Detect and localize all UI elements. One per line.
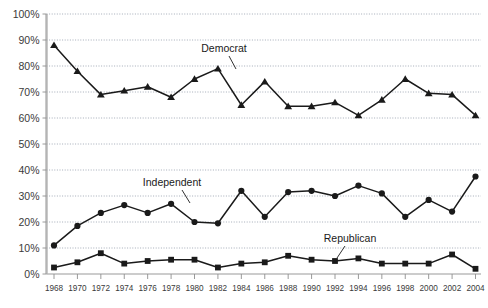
data-point-marker xyxy=(215,220,221,226)
y-tick-label: 100% xyxy=(13,8,40,20)
data-point-marker xyxy=(121,202,127,208)
data-point-marker xyxy=(168,257,174,263)
y-tick-label: 20% xyxy=(18,216,39,228)
data-point-marker xyxy=(261,78,269,85)
y-tick-label: 80% xyxy=(18,60,39,72)
data-point-marker xyxy=(285,189,291,195)
data-point-marker xyxy=(426,197,432,203)
data-point-marker xyxy=(262,259,268,265)
data-point-marker xyxy=(121,261,127,267)
series-independent xyxy=(51,173,479,248)
data-point-marker xyxy=(191,219,197,225)
data-point-marker xyxy=(401,75,409,82)
y-tick-label: 90% xyxy=(18,34,39,46)
x-tick-label: 1990 xyxy=(302,284,321,293)
y-tick-label: 40% xyxy=(18,164,39,176)
x-tick-label: 2004 xyxy=(466,284,485,293)
data-point-marker xyxy=(144,83,152,90)
data-point-marker xyxy=(332,258,338,264)
x-axis-tick-labels: 1968197019721974197619781980198219841986… xyxy=(45,284,485,293)
data-point-marker xyxy=(379,261,385,267)
data-point-marker xyxy=(449,252,455,258)
gridlines xyxy=(47,14,482,274)
data-point-marker xyxy=(215,265,221,271)
x-tick-label: 1984 xyxy=(232,284,251,293)
series-label-republican: Republican xyxy=(324,232,377,244)
leader-line xyxy=(182,190,190,203)
data-point-marker xyxy=(356,256,362,262)
x-tick-label: 1968 xyxy=(45,284,64,293)
y-tick-label: 50% xyxy=(18,138,39,150)
data-point-marker xyxy=(98,210,104,216)
data-point-marker xyxy=(449,209,455,215)
data-point-marker xyxy=(238,188,244,194)
series-label-independent: Independent xyxy=(143,176,201,188)
data-point-marker xyxy=(285,253,291,259)
data-point-marker xyxy=(168,201,174,207)
data-point-marker xyxy=(238,261,244,267)
data-point-marker xyxy=(51,265,57,271)
x-tick-label: 2002 xyxy=(443,284,462,293)
y-axis-tick-labels: 0%10%20%30%40%50%60%70%80%90%100% xyxy=(13,8,47,280)
data-point-marker xyxy=(402,261,408,267)
y-tick-label: 30% xyxy=(18,190,39,202)
series-democrat xyxy=(50,42,479,119)
data-point-marker xyxy=(262,214,268,220)
x-tick-label: 1980 xyxy=(185,284,204,293)
x-tick-label: 1986 xyxy=(256,284,275,293)
data-point-marker xyxy=(472,173,478,179)
data-point-marker xyxy=(379,190,385,196)
data-point-marker xyxy=(426,261,432,267)
x-axis-ticks xyxy=(54,274,476,279)
x-tick-label: 1976 xyxy=(139,284,158,293)
data-point-marker xyxy=(355,183,361,189)
data-point-marker xyxy=(308,188,314,194)
data-point-marker xyxy=(74,223,80,229)
series-annotations: DemocratIndependentRepublican xyxy=(143,42,377,258)
y-tick-label: 10% xyxy=(18,242,39,254)
series-line xyxy=(54,177,476,246)
data-point-marker xyxy=(51,242,57,248)
data-point-marker xyxy=(192,257,198,263)
y-tick-label: 0% xyxy=(24,268,39,280)
x-tick-label: 1988 xyxy=(279,284,298,293)
data-point-marker xyxy=(50,42,58,49)
data-point-marker xyxy=(98,250,104,256)
data-point-marker xyxy=(145,258,151,264)
x-tick-label: 1992 xyxy=(326,284,345,293)
x-tick-label: 1996 xyxy=(373,284,392,293)
series-label-democrat: Democrat xyxy=(201,42,247,54)
data-point-marker xyxy=(214,65,222,72)
x-tick-label: 1998 xyxy=(396,284,415,293)
x-tick-label: 1972 xyxy=(92,284,111,293)
data-point-marker xyxy=(145,210,151,216)
data-point-marker xyxy=(331,99,339,106)
data-point-marker xyxy=(309,257,315,263)
chart-container: 0%10%20%30%40%50%60%70%80%90%100% 196819… xyxy=(0,0,488,308)
leader-line xyxy=(229,56,236,69)
data-point-marker xyxy=(473,266,479,272)
x-tick-label: 1970 xyxy=(68,284,87,293)
x-tick-label: 1994 xyxy=(349,284,368,293)
data-point-marker xyxy=(402,214,408,220)
x-tick-label: 2000 xyxy=(420,284,439,293)
data-point-marker xyxy=(332,193,338,199)
line-chart: 0%10%20%30%40%50%60%70%80%90%100% 196819… xyxy=(0,0,488,308)
x-tick-label: 1974 xyxy=(115,284,134,293)
x-tick-label: 1982 xyxy=(209,284,228,293)
data-point-marker xyxy=(75,259,81,265)
data-series xyxy=(50,42,479,272)
x-tick-label: 1978 xyxy=(162,284,181,293)
series-republican xyxy=(51,250,478,271)
y-tick-label: 60% xyxy=(18,112,39,124)
y-tick-label: 70% xyxy=(18,86,39,98)
